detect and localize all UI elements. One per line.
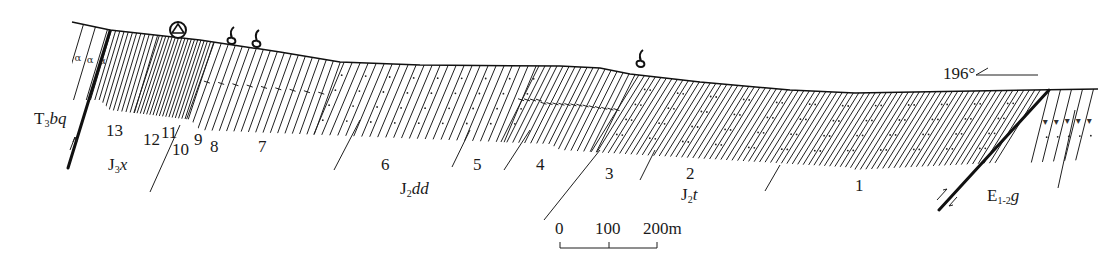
sand-dot: [767, 116, 769, 118]
bedding-line: [697, 84, 745, 161]
bedding-line: [843, 90, 893, 170]
gravel-symbol: ▾: [1043, 116, 1048, 127]
sand-dot: [1012, 102, 1014, 104]
sand-dot: [697, 126, 699, 128]
sand-dot: [654, 138, 656, 140]
sand-dot: [988, 132, 990, 134]
sand-dot: [796, 134, 798, 136]
bedding-line: [369, 62, 401, 138]
sand-dot: [715, 96, 717, 98]
orientation-label: 196°: [943, 64, 975, 83]
bedding-line: [270, 53, 299, 134]
sand-dot: [658, 122, 660, 124]
sand-dot: [913, 149, 915, 151]
sand-dot: [772, 117, 774, 119]
bedding-line: [691, 83, 739, 160]
bedding-line: [500, 64, 540, 144]
scale-tick-label-0: 0: [555, 219, 564, 238]
sand-dot: [328, 104, 330, 106]
sand-dot: [814, 104, 816, 106]
bedding-line: [883, 90, 932, 169]
sand-dot: [520, 108, 522, 110]
sand-dot: [490, 123, 492, 125]
sand-dot: [448, 107, 450, 109]
formation-label-t3bq: T3bq: [34, 109, 67, 129]
fossil-icon: [253, 30, 261, 47]
layer-label-5: 5: [473, 155, 482, 174]
sand-dot: [932, 119, 934, 121]
sand-dot: [965, 118, 967, 120]
sand-dot: [961, 133, 963, 135]
layer-label-10: 10: [172, 140, 189, 159]
sand-dot: [413, 77, 415, 79]
lower-mask: [60, 100, 1118, 269]
sand-dot: [951, 148, 953, 150]
sand-dot: [365, 75, 367, 77]
bedding-line: [361, 62, 393, 138]
bedding-line: [730, 87, 777, 163]
bedding-line: [48, 20, 72, 100]
sand-dot: [941, 104, 943, 106]
bedding-line: [888, 90, 937, 168]
sand-dot: [394, 122, 396, 124]
sand-dot: [418, 122, 420, 124]
sand-dot: [838, 120, 840, 122]
sand-dot: [431, 92, 433, 94]
bedding-line: [353, 62, 385, 138]
layer-label-2: 2: [686, 164, 695, 183]
bedding-line: [255, 51, 285, 134]
layer-label-8: 8: [210, 137, 219, 156]
bedding-line: [821, 91, 871, 172]
bedding-line: [576, 70, 618, 154]
sand-dot: [805, 119, 807, 121]
layer-label-7: 7: [258, 137, 267, 156]
sand-dot: [829, 135, 831, 137]
sand-dot: [625, 119, 627, 121]
layer-label-12: 12: [143, 130, 160, 149]
sand-dot: [753, 147, 755, 149]
limestone-brick: [546, 103, 552, 105]
limestone-brick: [540, 102, 546, 104]
bedding-line: [171, 38, 201, 130]
tuff-symbol: α: [62, 51, 69, 62]
sand-dot: [616, 134, 618, 136]
layer-label-3: 3: [605, 164, 614, 183]
bedding-line: [182, 40, 215, 130]
sand-dot: [875, 105, 877, 107]
bedding-line: [448, 63, 481, 141]
sand-dot: [743, 99, 745, 101]
sand-dot: [673, 108, 675, 110]
sand-dot: [706, 111, 708, 113]
bedding-line: [708, 85, 756, 162]
sand-dot: [461, 77, 463, 79]
tuff-symbol: α: [87, 54, 94, 65]
sand-dot: [664, 123, 666, 125]
sand-dot: [370, 121, 372, 123]
bedding-line: [488, 64, 521, 143]
sand-dot: [710, 96, 712, 98]
sand-dot: [649, 89, 651, 91]
cross-section-diagram: αααα▾▾▾▾▾ 196°: [0, 0, 1118, 269]
sand-dot: [640, 104, 642, 106]
bedding-line: [838, 90, 888, 170]
bedding-line: [855, 90, 904, 170]
sand-dot: [389, 76, 391, 78]
sand-dot: [341, 74, 343, 76]
bedding-line: [464, 64, 497, 142]
limestone-brick: [601, 107, 607, 109]
sand-dot: [833, 120, 835, 122]
limestone-brick: [595, 107, 601, 109]
sand-dot: [946, 103, 948, 105]
below-section-blank: [60, 100, 1118, 269]
sand-dot: [955, 133, 957, 135]
sand-dot: [701, 111, 703, 113]
bedding-line: [832, 91, 882, 171]
sand-dot: [649, 137, 651, 139]
limestone-brick: [589, 106, 595, 108]
sand-dot: [442, 122, 444, 124]
layer-label-13: 13: [106, 121, 123, 140]
limestone-brick: [558, 103, 564, 105]
layer-label-6: 6: [381, 155, 390, 174]
limestone-brick: [583, 105, 589, 107]
limestone-brick: [530, 99, 536, 101]
